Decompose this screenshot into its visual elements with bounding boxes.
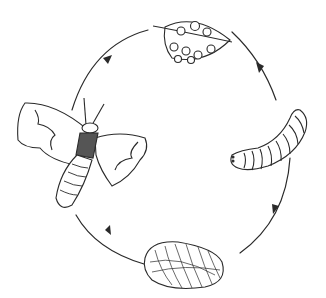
arrow-adult-to-egg-icon	[103, 55, 112, 64]
pupa-stage-cocoon	[144, 242, 223, 289]
larva-eye-icon	[232, 156, 234, 158]
moth-thorax	[76, 133, 98, 158]
adult-stage-moth	[18, 98, 147, 207]
cycle-arc-right-bottom	[240, 158, 290, 253]
moth-abdomen	[56, 155, 92, 207]
cycle-arc-left-top	[72, 30, 148, 110]
larva-stage-caterpillar	[231, 110, 307, 170]
arrow-pupa-to-adult-icon	[105, 225, 111, 235]
moth-head	[82, 123, 98, 133]
moth-right-wing	[95, 134, 147, 186]
cycle-arc-top-right	[232, 32, 276, 100]
egg-stage-leaf	[153, 22, 232, 64]
life-cycle-diagram	[0, 0, 326, 298]
cycle-arc-bottom-left	[76, 215, 144, 264]
life-cycle-svg	[0, 0, 326, 298]
